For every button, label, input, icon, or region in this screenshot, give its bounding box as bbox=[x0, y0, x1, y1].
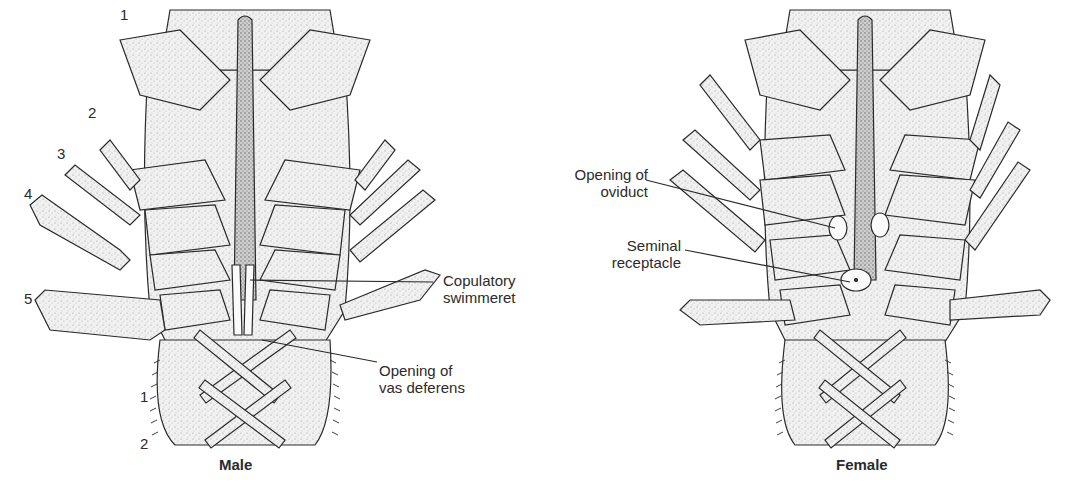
female-crayfish-drawing bbox=[670, 10, 1050, 448]
swimmeret-number-1: 1 bbox=[140, 388, 148, 405]
caption-male: Male bbox=[219, 456, 252, 473]
label-copulatory-swimmeret: Copulatory swimmeret bbox=[443, 272, 516, 306]
leg-number-4: 4 bbox=[24, 185, 32, 202]
label-seminal-receptacle: Seminal receptacle bbox=[585, 237, 681, 271]
leg-number-3: 3 bbox=[57, 145, 65, 162]
swimmeret-number-2: 2 bbox=[140, 435, 148, 452]
caption-female: Female bbox=[836, 456, 888, 473]
crayfish-illustrations bbox=[0, 0, 1067, 496]
leg-number-2: 2 bbox=[88, 104, 96, 121]
label-opening-vas-deferens: Opening of vas deferens bbox=[379, 362, 465, 396]
label-opening-oviduct: Opening of oviduct bbox=[553, 166, 648, 200]
leg-number-5: 5 bbox=[24, 290, 32, 307]
leg-number-1: 1 bbox=[120, 6, 128, 23]
